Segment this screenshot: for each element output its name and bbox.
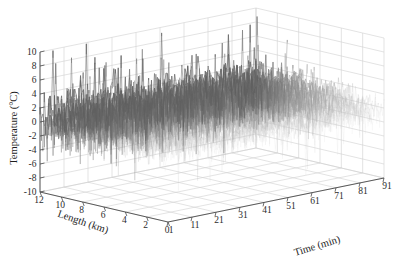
- y-tick-label: 6: [101, 210, 106, 220]
- z-tick-label: -4: [29, 145, 37, 155]
- x-tick-label: 71: [334, 191, 344, 201]
- x-tick-label: 21: [214, 215, 224, 225]
- y-tick-label: 2: [143, 220, 148, 230]
- x-tick-label: 51: [286, 201, 296, 211]
- z-axis-title: Temperature (°C): [8, 91, 20, 165]
- plot-canvas: 1086420-2-4-6-8-101210864201112131415161…: [0, 0, 400, 276]
- y-tick-label: 4: [122, 215, 127, 225]
- x-tick-label: 31: [238, 210, 248, 220]
- z-tick-label: 6: [32, 75, 37, 85]
- y-tick-label: 8: [79, 205, 84, 215]
- x-tick-label: 1: [169, 225, 174, 235]
- z-tick-label: 2: [32, 103, 37, 113]
- z-tick-label: -2: [29, 131, 37, 141]
- x-tick-label: 91: [382, 181, 392, 191]
- y-tick-label: 12: [34, 195, 44, 205]
- z-tick-label: 4: [32, 89, 37, 99]
- x-tick-label: 41: [262, 205, 272, 215]
- z-tick-label: 0: [32, 117, 37, 127]
- z-tick-label: -8: [29, 173, 37, 183]
- z-tick-label: 8: [32, 61, 37, 71]
- x-tick-label: 61: [310, 196, 320, 206]
- x-tick-label: 11: [190, 220, 199, 230]
- x-tick-label: 81: [358, 186, 368, 196]
- z-tick-label: -6: [29, 159, 37, 169]
- figure-3d-surface-plot: 1086420-2-4-6-8-101210864201112131415161…: [0, 0, 400, 276]
- z-tick-label: 10: [27, 47, 37, 57]
